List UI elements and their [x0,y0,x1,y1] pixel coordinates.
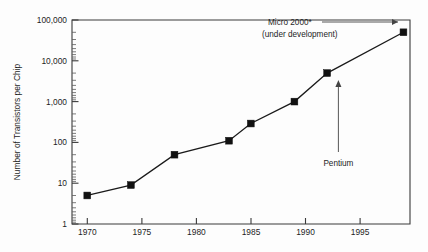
y-tick-label-10000: 10,000 [41,56,67,66]
y-tick-label-100000: 100,000 [37,15,68,25]
y-tick-label-10: 10 [58,178,68,188]
data-point-1974 [127,182,134,189]
pentium-label: Pentium [323,159,353,168]
x-tick-label-1985: 1985 [242,227,261,237]
x-tick-label-1980: 1980 [187,227,206,237]
chart-background [0,0,428,252]
data-point-1992 [324,70,331,77]
data-point-1999 [400,29,407,36]
x-tick-label-1995: 1995 [351,227,370,237]
micro-2000-label-line1: Micro 2000* [268,18,313,27]
y-tick-label-100: 100 [53,137,67,147]
data-point-1978 [171,151,178,158]
y-axis-title: Number of Transistors per Chip [12,63,22,180]
x-tick-label-1970: 1970 [78,227,97,237]
chart-screenshot: 100,000 10,000 1,000 100 10 1 Number of … [0,0,428,252]
data-point-1985 [247,120,254,127]
data-point-1989 [291,98,298,105]
x-tick-label-1975: 1975 [133,227,152,237]
y-tick-label-1000: 1,000 [46,97,67,107]
x-tick-label-1990: 1990 [296,227,315,237]
y-axis-title-text: Number of Transistors per Chip [12,63,22,180]
data-point-1983 [226,137,233,144]
y-tick-label-1: 1 [62,219,67,229]
transistors-per-chip-chart: 100,000 10,000 1,000 100 10 1 Number of … [0,0,428,252]
micro-2000-label-line2: (under development) [262,30,338,39]
data-point-1970 [84,192,91,199]
